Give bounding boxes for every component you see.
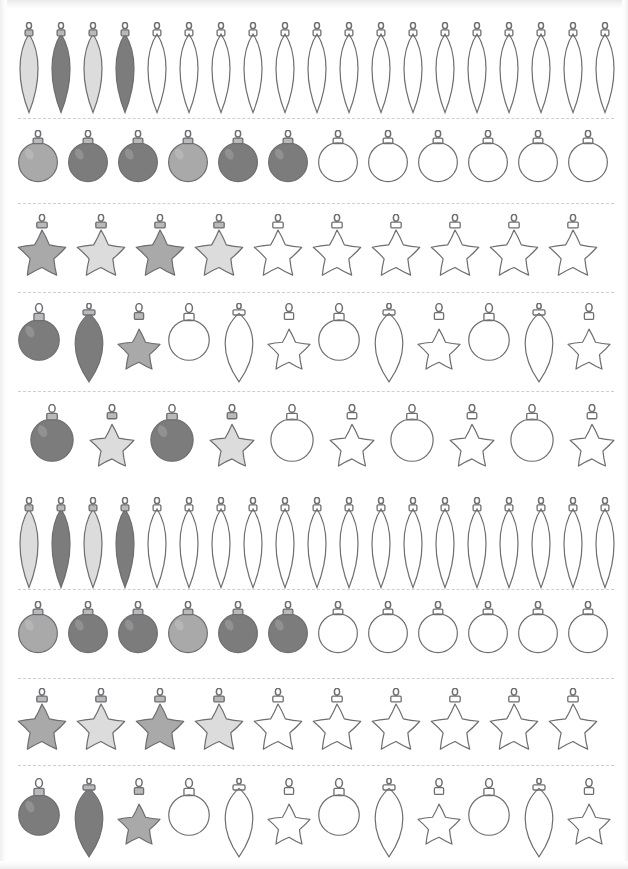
ornament-star-outline[interactable]: [488, 214, 540, 282]
ornament-teardrop-filled[interactable]: [66, 303, 112, 383]
ornament-star-filled[interactable]: [88, 404, 136, 476]
ornament-ball-filled[interactable]: [16, 778, 62, 858]
ornament-star-filled[interactable]: [75, 214, 127, 282]
ornament-teardrop-filled[interactable]: [14, 497, 44, 589]
ornament-teardrop-outline[interactable]: [174, 22, 204, 114]
ornament-teardrop-filled[interactable]: [46, 22, 76, 114]
ornament-teardrop-outline[interactable]: [462, 22, 492, 114]
ornament-star-filled[interactable]: [208, 404, 256, 476]
ornament-star-outline[interactable]: [328, 404, 376, 476]
ornament-teardrop-outline[interactable]: [238, 22, 268, 114]
ornament-ball-outline[interactable]: [166, 303, 212, 383]
ornament-teardrop-outline[interactable]: [526, 22, 556, 114]
ornament-star-outline[interactable]: [566, 778, 612, 858]
ornament-ball-outline[interactable]: [508, 404, 556, 476]
ornament-ball-filled[interactable]: [66, 130, 110, 192]
ornament-star-filled[interactable]: [134, 214, 186, 282]
ornament-teardrop-outline[interactable]: [142, 497, 172, 589]
ornament-star-outline[interactable]: [568, 404, 616, 476]
ornament-star-outline[interactable]: [311, 214, 363, 282]
ornament-ball-filled[interactable]: [16, 601, 60, 663]
ornament-teardrop-filled[interactable]: [66, 778, 112, 858]
ornament-star-outline[interactable]: [416, 303, 462, 383]
ornament-star-filled[interactable]: [116, 778, 162, 858]
ornament-teardrop-outline[interactable]: [366, 497, 396, 589]
ornament-ball-filled[interactable]: [148, 404, 196, 476]
ornament-teardrop-filled[interactable]: [78, 22, 108, 114]
ornament-ball-outline[interactable]: [366, 130, 410, 192]
ornament-ball-outline[interactable]: [466, 778, 512, 858]
ornament-ball-outline[interactable]: [466, 130, 510, 192]
ornament-star-outline[interactable]: [266, 303, 312, 383]
ornament-ball-filled[interactable]: [116, 601, 160, 663]
ornament-teardrop-outline[interactable]: [206, 497, 236, 589]
ornament-teardrop-outline[interactable]: [462, 497, 492, 589]
ornament-ball-filled[interactable]: [166, 601, 210, 663]
ornament-ball-filled[interactable]: [166, 130, 210, 192]
ornament-teardrop-outline[interactable]: [270, 497, 300, 589]
ornament-teardrop-outline[interactable]: [398, 22, 428, 114]
ornament-ball-filled[interactable]: [16, 303, 62, 383]
ornament-ball-outline[interactable]: [516, 130, 560, 192]
ornament-teardrop-outline[interactable]: [216, 303, 262, 383]
ornament-star-outline[interactable]: [547, 214, 599, 282]
ornament-star-outline[interactable]: [311, 688, 363, 756]
ornament-star-outline[interactable]: [429, 214, 481, 282]
ornament-ball-filled[interactable]: [28, 404, 76, 476]
ornament-teardrop-outline[interactable]: [270, 22, 300, 114]
ornament-ball-outline[interactable]: [316, 130, 360, 192]
ornament-ball-outline[interactable]: [366, 601, 410, 663]
ornament-star-outline[interactable]: [488, 688, 540, 756]
ornament-teardrop-outline[interactable]: [302, 22, 332, 114]
ornament-star-outline[interactable]: [429, 688, 481, 756]
ornament-teardrop-outline[interactable]: [142, 22, 172, 114]
ornament-teardrop-outline[interactable]: [366, 22, 396, 114]
ornament-teardrop-outline[interactable]: [558, 22, 588, 114]
ornament-ball-filled[interactable]: [266, 601, 310, 663]
ornament-star-outline[interactable]: [416, 778, 462, 858]
ornament-star-outline[interactable]: [370, 214, 422, 282]
ornament-teardrop-filled[interactable]: [14, 22, 44, 114]
ornament-teardrop-filled[interactable]: [110, 22, 140, 114]
ornament-star-outline[interactable]: [448, 404, 496, 476]
ornament-teardrop-filled[interactable]: [78, 497, 108, 589]
ornament-ball-outline[interactable]: [166, 778, 212, 858]
ornament-teardrop-outline[interactable]: [216, 778, 262, 858]
ornament-ball-outline[interactable]: [566, 130, 610, 192]
ornament-teardrop-outline[interactable]: [516, 778, 562, 858]
ornament-teardrop-outline[interactable]: [590, 22, 620, 114]
ornament-teardrop-outline[interactable]: [558, 497, 588, 589]
ornament-star-filled[interactable]: [134, 688, 186, 756]
ornament-ball-filled[interactable]: [216, 601, 260, 663]
ornament-teardrop-outline[interactable]: [516, 303, 562, 383]
ornament-ball-outline[interactable]: [516, 601, 560, 663]
ornament-teardrop-outline[interactable]: [430, 497, 460, 589]
ornament-ball-filled[interactable]: [16, 130, 60, 192]
ornament-teardrop-outline[interactable]: [302, 497, 332, 589]
ornament-ball-outline[interactable]: [268, 404, 316, 476]
ornament-star-filled[interactable]: [16, 688, 68, 756]
ornament-teardrop-outline[interactable]: [238, 497, 268, 589]
ornament-star-filled[interactable]: [193, 688, 245, 756]
ornament-star-filled[interactable]: [75, 688, 127, 756]
ornament-ball-outline[interactable]: [316, 778, 362, 858]
ornament-ball-outline[interactable]: [566, 601, 610, 663]
ornament-star-filled[interactable]: [116, 303, 162, 383]
ornament-teardrop-outline[interactable]: [334, 497, 364, 589]
ornament-ball-outline[interactable]: [416, 601, 460, 663]
ornament-star-outline[interactable]: [370, 688, 422, 756]
ornament-teardrop-outline[interactable]: [398, 497, 428, 589]
ornament-teardrop-outline[interactable]: [494, 22, 524, 114]
ornament-teardrop-outline[interactable]: [174, 497, 204, 589]
ornament-teardrop-filled[interactable]: [46, 497, 76, 589]
ornament-ball-filled[interactable]: [216, 130, 260, 192]
ornament-ball-filled[interactable]: [66, 601, 110, 663]
ornament-teardrop-outline[interactable]: [366, 303, 412, 383]
ornament-ball-outline[interactable]: [416, 130, 460, 192]
ornament-star-filled[interactable]: [16, 214, 68, 282]
ornament-ball-outline[interactable]: [316, 303, 362, 383]
ornament-star-filled[interactable]: [193, 214, 245, 282]
ornament-teardrop-outline[interactable]: [494, 497, 524, 589]
ornament-teardrop-outline[interactable]: [430, 22, 460, 114]
ornament-ball-outline[interactable]: [466, 303, 512, 383]
